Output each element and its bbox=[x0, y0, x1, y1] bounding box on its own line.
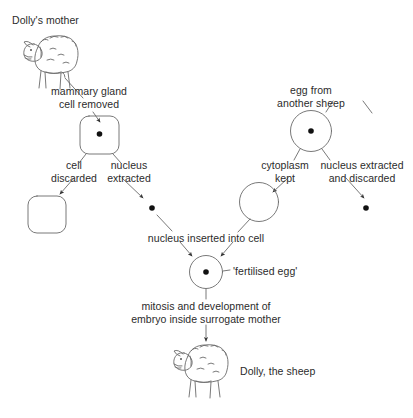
dolly-sheep-icon bbox=[174, 345, 228, 398]
label-dolly-the-sheep: Dolly, the sheep bbox=[240, 365, 315, 378]
cloning-diagram-canvas: Dolly's mother mammary gland cell remove… bbox=[0, 0, 413, 418]
cytoplasm-to-insert-line bbox=[238, 219, 250, 232]
label-dollys-mother: Dolly's mother bbox=[12, 14, 79, 27]
label-nucleus-extracted: nucleus extracted bbox=[107, 159, 151, 184]
discarded-cell-shape bbox=[28, 196, 66, 233]
label-fertilised-egg: 'fertilised egg' bbox=[233, 265, 297, 278]
fertilised-egg-label-line bbox=[223, 270, 230, 271]
discarded-nucleus-dot bbox=[363, 205, 369, 211]
donor-egg-shape bbox=[291, 111, 332, 152]
egg-label-pointer-right bbox=[363, 101, 372, 113]
nucleus-to-insert-line bbox=[157, 215, 172, 231]
label-cytoplasm-kept: cytoplasm kept bbox=[261, 159, 309, 184]
mother-sheep-icon bbox=[24, 36, 78, 89]
label-nucleus-inserted-into-cell: nucleus inserted into cell bbox=[148, 232, 264, 245]
label-mammary-gland-cell-removed: mammary gland cell removed bbox=[51, 85, 127, 110]
label-egg-from-another-sheep: egg from another sheep bbox=[277, 84, 345, 109]
label-mitosis-and-development: mitosis and development of embryo inside… bbox=[131, 300, 281, 325]
label-nucleus-extracted-and-discarded: nucleus extracted and discarded bbox=[320, 159, 403, 184]
fertilised-egg-shape bbox=[190, 256, 223, 289]
diagram-graphics bbox=[0, 0, 413, 418]
extracted-nucleus-dot bbox=[149, 205, 155, 211]
label-cell-discarded: cell discarded bbox=[51, 159, 97, 184]
cytoplasm-shape bbox=[240, 183, 279, 222]
arrow-to-mammary-cell bbox=[93, 112, 100, 122]
